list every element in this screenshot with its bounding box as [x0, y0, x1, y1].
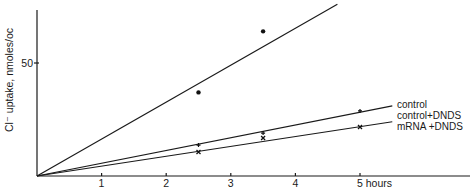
- x-tick-label: 1: [99, 177, 105, 189]
- x-tick-label: 4: [292, 177, 298, 189]
- y-axis-label: Cl⁻ uptake, nmoles/oc: [3, 28, 15, 132]
- x-tick-label: 2: [163, 177, 169, 189]
- data-point-mrna: [261, 29, 265, 33]
- y-axis-label-group: Cl⁻ uptake, nmoles/oc: [3, 28, 15, 132]
- x-tick-label: 5 hours: [357, 177, 392, 189]
- fit-line-mrna-dnds: [37, 122, 392, 176]
- data-point-mrna-dnds: [261, 136, 265, 140]
- chart: Cl⁻ uptake, nmoles/oc 12345 hours50 cont…: [0, 0, 474, 190]
- legend-label-mrna-dnds: mRNA +DNDS: [397, 121, 463, 132]
- legend-label-control: control: [397, 99, 427, 110]
- fit-line-mrna: [37, 4, 337, 176]
- data-point-mrna: [196, 90, 200, 94]
- legend-label-control-dnds: control+DNDS: [397, 110, 462, 121]
- y-tick-label: 50: [21, 57, 33, 69]
- x-tick-label: 3: [228, 177, 234, 189]
- fit-line-control: [37, 106, 392, 176]
